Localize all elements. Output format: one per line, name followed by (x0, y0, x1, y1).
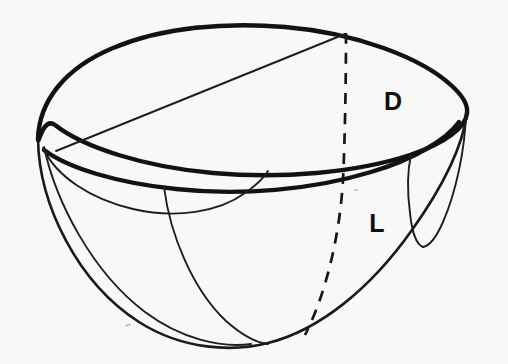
interior-meridian-arc (164, 187, 268, 344)
diameter-label: D (384, 87, 402, 115)
left-lens-lower-arc (43, 148, 268, 214)
paper-speck (354, 189, 358, 191)
paper-speck (125, 323, 131, 327)
hemisphere-bowl-diagram: D L (0, 0, 508, 364)
figure-canvas: D L (0, 0, 508, 364)
length-label: L (369, 209, 384, 237)
rim-ellipse-back (38, 25, 467, 139)
rim-ellipse-front (38, 113, 467, 175)
diameter-chord-line (56, 34, 345, 151)
